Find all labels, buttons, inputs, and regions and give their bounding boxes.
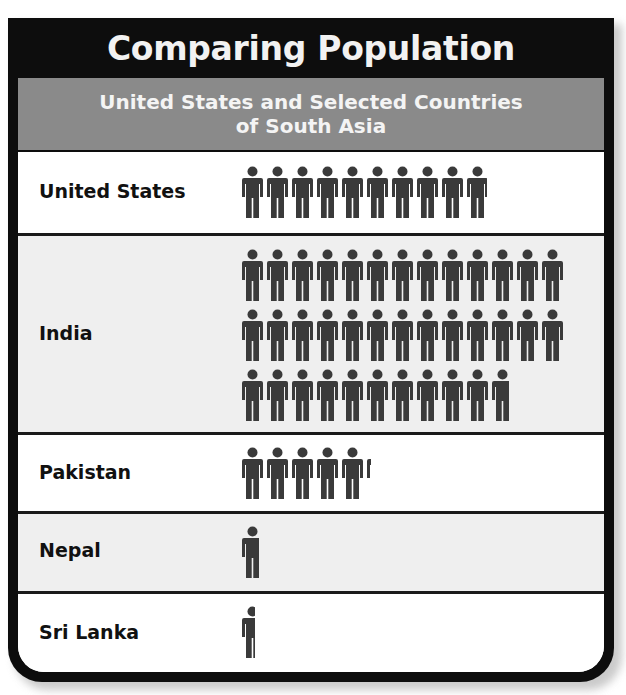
person-icon <box>366 369 389 422</box>
legend-connector-left <box>218 591 384 594</box>
person-icon <box>291 166 314 219</box>
person-icon <box>416 166 439 219</box>
person-icon <box>266 166 289 219</box>
row-united-states: United States <box>18 152 604 234</box>
person-icon <box>266 447 289 500</box>
person-icon <box>541 309 564 362</box>
person-icon <box>291 309 314 362</box>
row-label: Pakistan <box>39 461 131 483</box>
person-icon <box>341 166 364 219</box>
row-pakistan: Pakistan <box>18 432 604 512</box>
person-icon <box>516 309 539 362</box>
person-icon <box>391 369 414 422</box>
chart-body: United States India Pakistan Nepal Sri L… <box>18 152 604 672</box>
person-icon <box>366 249 389 302</box>
person-icon <box>316 369 339 422</box>
person-icon <box>491 369 509 422</box>
subtitle-line-2: of South Asia <box>236 114 386 138</box>
person-icon <box>316 249 339 302</box>
row-sri-lanka: Sri Lanka <box>18 591 604 672</box>
person-icon <box>241 249 264 302</box>
person-icon <box>241 166 264 219</box>
person-icon <box>341 447 364 500</box>
row-nepal: Nepal <box>18 511 604 592</box>
chart-subtitle: United States and Selected Countries of … <box>18 78 604 150</box>
person-icon <box>441 369 464 422</box>
row-india: India <box>18 233 604 433</box>
person-icon <box>266 309 289 362</box>
person-icon <box>241 606 255 659</box>
person-icon <box>391 166 414 219</box>
person-icon <box>516 249 539 302</box>
person-icon <box>266 249 289 302</box>
person-icon <box>366 447 371 500</box>
person-icon <box>441 309 464 362</box>
person-icon <box>241 526 259 579</box>
person-icon <box>491 249 514 302</box>
person-icon <box>366 309 389 362</box>
row-label: Sri Lanka <box>39 621 139 643</box>
person-icon <box>341 369 364 422</box>
person-icon <box>241 369 264 422</box>
person-icon <box>291 369 314 422</box>
person-icon <box>291 249 314 302</box>
person-icon <box>441 166 464 219</box>
person-icon <box>341 309 364 362</box>
row-label: United States <box>39 180 186 202</box>
pictograph-frame: Comparing Population United States and S… <box>8 18 614 682</box>
person-icon <box>416 309 439 362</box>
person-icon <box>316 166 339 219</box>
chart-title: Comparing Population <box>8 18 614 78</box>
person-icon <box>541 249 564 302</box>
person-icon <box>491 309 514 362</box>
person-icon <box>341 249 364 302</box>
person-icon <box>416 369 439 422</box>
person-icon <box>466 369 489 422</box>
person-icon <box>416 249 439 302</box>
row-label: Nepal <box>39 539 101 561</box>
person-icon <box>391 309 414 362</box>
person-icon <box>266 369 289 422</box>
person-icon <box>466 166 487 219</box>
person-icon <box>241 447 264 500</box>
person-icon <box>316 447 339 500</box>
person-icon <box>316 309 339 362</box>
person-icon <box>391 249 414 302</box>
subtitle-line-1: United States and Selected Countries <box>99 90 523 114</box>
legend-connector-right <box>588 591 604 594</box>
person-icon <box>466 249 489 302</box>
person-icon <box>241 309 264 362</box>
person-icon <box>466 309 489 362</box>
person-icon <box>366 166 389 219</box>
person-icon <box>441 249 464 302</box>
person-icon <box>291 447 314 500</box>
row-label: India <box>39 322 93 344</box>
